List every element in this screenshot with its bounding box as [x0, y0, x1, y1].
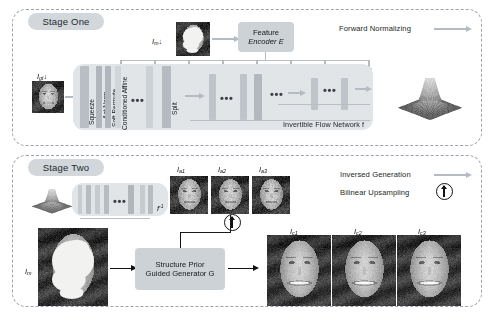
legend-forward-normalizing-label: Forward Normalizing [339, 24, 411, 33]
prior-1-thumbnail [170, 176, 208, 214]
prior-3-label: Ia3 [259, 165, 267, 174]
gaussian-surface-plot [395, 78, 465, 126]
generator-to-results-arrow-icon [228, 268, 254, 269]
result-1-image [267, 235, 331, 306]
inverse-flow-ellipsis: ••• [113, 199, 126, 204]
flow-band-b2 [341, 78, 348, 110]
flow-inner-arrow-2-icon [288, 92, 302, 94]
bilinear-upsampling-icon [224, 214, 241, 231]
legend-bilinear-upsampling-label: Bilinear Upsampling [340, 188, 409, 197]
masked-input-image [38, 228, 108, 306]
prior-2-label: Ia2 [218, 165, 226, 174]
flow-band-a1 [209, 74, 216, 120]
flow-ellipsis-2: ••• [220, 96, 233, 101]
ground-truth-thumbnail [32, 81, 64, 113]
flow-label-conditioned-affine: Conditioned Affine [121, 77, 128, 130]
inv-band-7 [148, 185, 153, 214]
result-3-image [397, 235, 461, 306]
flow-label-squeeze: Squeeze [88, 99, 95, 125]
prior-3-thumbnail [252, 176, 290, 214]
mask-input-label: Im↓ [152, 37, 162, 46]
prior-path-down [230, 215, 231, 233]
encoder-bus-rail [120, 60, 368, 61]
inv-band-4 [104, 185, 109, 214]
figure-root: Stage One Forward Normalizing Im↓ Featur… [0, 0, 494, 317]
generator-line2: Guided Generator G [146, 269, 215, 279]
latent-surface-plot [30, 189, 74, 217]
inv-band-6 [140, 185, 145, 214]
masked-to-generator-arrow-icon [110, 268, 132, 269]
legend-inversed-arrow-icon [434, 174, 468, 176]
masked-input-label: Im [25, 267, 32, 276]
flow-band-a3 [254, 74, 262, 120]
result-2-image [332, 235, 396, 306]
flow-ellipsis-3: ••• [270, 92, 283, 97]
inverse-flow-label: f-1 [157, 203, 164, 213]
inv-band-2 [86, 185, 91, 214]
mask-to-encoder-arrow-icon [212, 38, 236, 40]
flow-ellipsis-1: ••• [131, 98, 144, 103]
encoder-bus-stem [265, 52, 266, 60]
mask-input-thumbnail [176, 22, 210, 56]
flow-inner-arrow-1-icon [185, 95, 201, 97]
flow-ellipsis-4: ••• [323, 88, 336, 93]
inv-band-1 [78, 185, 82, 214]
flow-skip-rail-2 [278, 104, 370, 105]
inv-band-3 [95, 185, 100, 214]
ground-truth-input-label: Igt↓ [37, 72, 47, 81]
flow-label-split: Split [171, 102, 178, 115]
prior-path-left [180, 232, 231, 233]
invertible-flow-network-label: Invertible Flow Network f [283, 120, 364, 129]
feature-encoder-line1: Feature [253, 28, 279, 38]
stage-one-badge: Stage One [28, 13, 104, 30]
prior-2-thumbnail [211, 176, 249, 214]
legend-forward-arrow-icon [434, 28, 468, 30]
structure-prior-guided-generator-box: Structure Prior Guided Generator G [135, 248, 225, 290]
feature-encoder-line2: Encoder E [248, 37, 283, 47]
flow-inner-arrow-3-icon [355, 88, 368, 90]
feature-encoder-box: Feature Encoder E [238, 22, 294, 52]
flow-band-split [162, 66, 171, 128]
inv-band-5 [128, 185, 134, 214]
legend-inversed-generation-label: Inversed Generation [340, 170, 411, 179]
legend-up-arrow-circle-icon [436, 183, 453, 200]
generator-line1: Structure Prior [156, 260, 205, 270]
flow-band-a2 [240, 74, 247, 120]
inverse-flow-rail [80, 218, 150, 219]
prior-1-label: Ia1 [177, 165, 185, 174]
flow-band-pre-split [146, 66, 153, 128]
flow-band-b1 [311, 78, 318, 110]
stage-two-badge: Stage Two [28, 159, 104, 176]
